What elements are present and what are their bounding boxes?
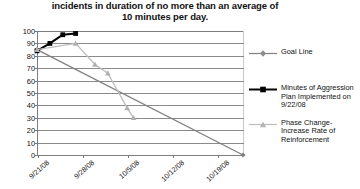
y-axis-tick-mark bbox=[35, 130, 38, 131]
legend-label-phase-change: Phase Change-Increase Rate of Reinforcem… bbox=[278, 119, 356, 145]
x-axis-tick-label: 10/19/08 bbox=[204, 158, 231, 183]
gridline bbox=[38, 93, 244, 94]
square-marker-icon bbox=[248, 85, 278, 94]
y-axis-tick-mark bbox=[35, 105, 38, 106]
gridline bbox=[38, 56, 244, 57]
y-axis-tick-mark bbox=[35, 81, 38, 82]
x-axis-tick-label: 9/21/08 bbox=[27, 158, 51, 181]
chart-container: incidents in duration of no more than an… bbox=[0, 0, 360, 189]
gridline bbox=[38, 105, 244, 106]
y-axis-tick-label: 100 bbox=[23, 27, 35, 36]
y-axis-tick-mark bbox=[35, 93, 38, 94]
x-axis-tick-mark bbox=[38, 155, 39, 158]
y-axis-tick-label: 0 bbox=[31, 151, 35, 160]
plot-top-border bbox=[38, 31, 244, 32]
y-axis-tick-mark bbox=[35, 118, 38, 119]
x-axis-tick-mark bbox=[173, 155, 174, 158]
legend-item-minutes-aggression[interactable]: Minutes of Aggression Plan Implemented o… bbox=[248, 84, 356, 110]
y-axis-tick-label: 60 bbox=[27, 76, 35, 85]
y-axis-tick-label: 40 bbox=[27, 101, 35, 110]
x-axis-tick-label: 9/28/08 bbox=[72, 158, 96, 181]
triangle-marker-icon bbox=[248, 120, 278, 129]
chart-title-line-1: incidents in duration of no more than an… bbox=[0, 0, 330, 11]
gridline bbox=[38, 130, 244, 131]
x-axis-tick-label: 10/5/08 bbox=[117, 158, 141, 181]
y-axis-tick-label: 50 bbox=[27, 89, 35, 98]
gridline bbox=[38, 68, 244, 69]
y-axis-tick-mark bbox=[35, 43, 38, 44]
plot-area: 10090807060504030201009/21/089/28/0810/5… bbox=[37, 31, 244, 156]
legend-item-goal-line[interactable]: Goal Line bbox=[248, 48, 356, 58]
y-axis-tick-label: 30 bbox=[27, 113, 35, 122]
y-axis-tick-mark bbox=[35, 31, 38, 32]
gridline bbox=[38, 43, 244, 44]
gridline bbox=[38, 81, 244, 82]
legend-item-phase-change[interactable]: Phase Change-Increase Rate of Reinforcem… bbox=[248, 119, 356, 145]
x-axis-tick-label: 10/12/08 bbox=[159, 158, 186, 183]
x-axis-tick-mark bbox=[83, 155, 84, 158]
x-axis-tick-mark bbox=[128, 155, 129, 158]
legend-label-goal-line: Goal Line bbox=[278, 48, 313, 57]
diamond-marker-icon bbox=[248, 49, 278, 58]
legend-label-minutes-aggression: Minutes of Aggression Plan Implemented o… bbox=[278, 84, 356, 110]
x-axis-tick-mark bbox=[218, 155, 219, 158]
y-axis-tick-label: 80 bbox=[27, 51, 35, 60]
y-axis-tick-label: 10 bbox=[27, 138, 35, 147]
chart-title-line-2: 10 minutes per day. bbox=[0, 11, 330, 22]
y-axis-tick-mark bbox=[35, 143, 38, 144]
chart-title: incidents in duration of no more than an… bbox=[0, 0, 330, 22]
y-axis-tick-label: 70 bbox=[27, 64, 35, 73]
gridline bbox=[38, 143, 244, 144]
chart-legend: Goal Line Minutes of Aggression Plan Imp… bbox=[248, 48, 356, 154]
y-axis-tick-label: 20 bbox=[27, 126, 35, 135]
y-axis-tick-mark bbox=[35, 56, 38, 57]
y-axis-tick-mark bbox=[35, 68, 38, 69]
gridline bbox=[38, 118, 244, 119]
y-axis-tick-label: 90 bbox=[27, 39, 35, 48]
